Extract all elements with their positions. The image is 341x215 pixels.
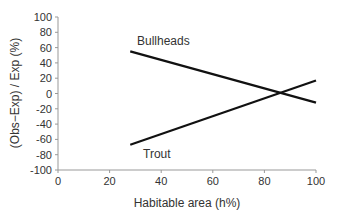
y-tick-label: 60 — [40, 42, 52, 54]
series-line-bullheads — [130, 51, 316, 102]
y-tick-label: 100 — [34, 11, 52, 23]
series-line-trout — [130, 80, 316, 144]
y-tick-label: -40 — [36, 118, 52, 130]
y-tick-label: -60 — [36, 133, 52, 145]
x-tick-label: 0 — [55, 175, 61, 187]
line-chart: 100806040200-20-40-60-80-100020406080100… — [0, 0, 341, 215]
x-tick-label: 20 — [103, 175, 115, 187]
y-tick-label: 0 — [46, 88, 52, 100]
series-lines — [130, 51, 316, 144]
y-tick-label: 80 — [40, 26, 52, 38]
x-axis-label: Habitable area (h%) — [134, 196, 241, 210]
y-tick-label: -100 — [30, 164, 52, 176]
x-tick-label: 40 — [155, 175, 167, 187]
y-tick-label: -80 — [36, 149, 52, 161]
x-tick-label: 80 — [258, 175, 270, 187]
y-tick-label: 20 — [40, 72, 52, 84]
series-label-bullheads: Bullheads — [137, 34, 190, 48]
y-tick-label: 40 — [40, 57, 52, 69]
series-label-trout: Trout — [143, 147, 171, 161]
x-tick-label: 60 — [207, 175, 219, 187]
x-tick-label: 100 — [307, 175, 325, 187]
y-axis-label: (Obs−Exp) / Exp (%) — [8, 38, 22, 148]
y-tick-label: -20 — [36, 103, 52, 115]
